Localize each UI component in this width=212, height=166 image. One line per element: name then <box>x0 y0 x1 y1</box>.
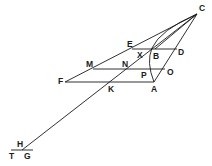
line-CA <box>154 14 197 82</box>
label-K: K <box>108 84 115 94</box>
label-O: O <box>167 67 174 77</box>
label-M: M <box>86 59 93 69</box>
label-X: X <box>137 50 143 60</box>
label-E: E <box>127 39 133 49</box>
label-A: A <box>151 84 157 94</box>
label-G: G <box>24 151 31 161</box>
label-N: N <box>122 59 128 69</box>
line-CB <box>155 14 197 49</box>
label-C: C <box>199 3 205 13</box>
label-T: T <box>9 151 15 161</box>
label-F: F <box>58 76 63 86</box>
label-P: P <box>141 70 147 80</box>
geometry-diagram: C E X B D M N P O F K A H T G <box>0 0 212 166</box>
label-B: B <box>153 51 159 61</box>
label-D: D <box>178 47 184 57</box>
label-H: H <box>17 139 23 149</box>
